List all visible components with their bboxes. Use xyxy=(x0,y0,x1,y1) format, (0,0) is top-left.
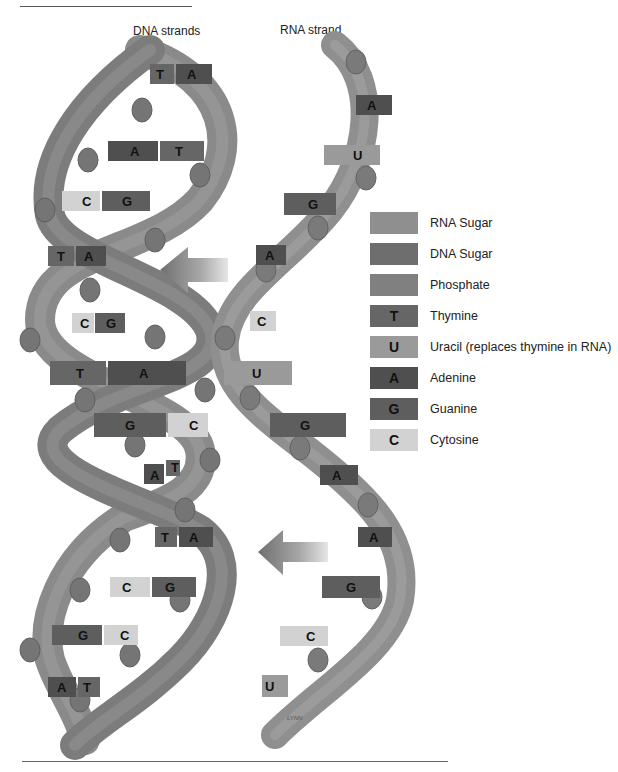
base-pair: G C xyxy=(94,413,208,437)
legend-item-phosphate: Phosphate xyxy=(370,269,611,300)
svg-text:G: G xyxy=(78,628,88,643)
svg-text:A: A xyxy=(187,67,197,82)
legend-item-dna-sugar: DNA Sugar xyxy=(370,238,611,269)
legend-label: DNA Sugar xyxy=(430,247,493,261)
base-pair: C G xyxy=(72,313,125,333)
legend-label: Phosphate xyxy=(430,278,490,292)
cytosine-swatch: C xyxy=(370,429,418,451)
legend-label: Uracil (replaces thymine in RNA) xyxy=(430,340,611,354)
thymine-swatch: T xyxy=(370,305,418,327)
legend-label: Cytosine xyxy=(430,433,479,447)
svg-text:G: G xyxy=(300,418,310,433)
base-pair: G C xyxy=(52,625,138,645)
svg-text:C: C xyxy=(189,418,199,433)
svg-text:T: T xyxy=(57,249,65,264)
svg-text:A: A xyxy=(130,144,140,159)
legend-label: Guanine xyxy=(430,402,477,416)
base-pair: A T xyxy=(108,141,204,161)
legend-item-rna-sugar: RNA Sugar xyxy=(370,207,611,238)
svg-text:T: T xyxy=(175,144,183,159)
base-pair: T A xyxy=(150,64,212,84)
svg-text:U: U xyxy=(353,148,362,163)
svg-text:U: U xyxy=(265,679,274,694)
arrow-left-icon xyxy=(258,530,328,575)
svg-text:A: A xyxy=(189,530,199,545)
adenine-swatch: A xyxy=(370,367,418,389)
rna-sugar-swatch xyxy=(370,212,418,234)
legend-label: RNA Sugar xyxy=(430,216,493,230)
base-pair: C G xyxy=(110,577,196,597)
base-pair: T A xyxy=(50,361,186,385)
base-pair: A T xyxy=(48,677,100,697)
svg-text:G: G xyxy=(106,316,116,331)
svg-text:A: A xyxy=(84,249,94,264)
legend-item-uracil: U Uracil (replaces thymine in RNA) xyxy=(370,331,611,362)
svg-text:T: T xyxy=(83,680,91,695)
legend-label: Adenine xyxy=(430,371,476,385)
svg-text:G: G xyxy=(308,197,318,212)
svg-text:T: T xyxy=(156,67,164,82)
svg-text:U: U xyxy=(252,366,261,381)
svg-text:G: G xyxy=(165,580,175,595)
svg-text:C: C xyxy=(122,580,132,595)
svg-text:C: C xyxy=(82,194,92,209)
legend-item-cytosine: C Cytosine xyxy=(370,424,611,455)
svg-text:A: A xyxy=(265,248,275,263)
svg-text:G: G xyxy=(125,418,135,433)
artist-credit: LYNN xyxy=(287,715,302,721)
svg-text:C: C xyxy=(80,316,90,331)
phosphate-swatch xyxy=(370,274,418,296)
legend: RNA Sugar DNA Sugar Phosphate T Thymine … xyxy=(370,207,611,455)
dna-sugar-swatch xyxy=(370,243,418,265)
base-pair: T A xyxy=(48,246,106,266)
base-pair: C G xyxy=(62,191,150,211)
legend-label: Thymine xyxy=(430,309,478,323)
svg-text:A: A xyxy=(57,680,67,695)
svg-text:T: T xyxy=(171,460,179,475)
svg-text:A: A xyxy=(369,530,379,545)
base-pair: T A xyxy=(155,527,213,547)
guanine-swatch: G xyxy=(370,398,418,420)
bottom-rule xyxy=(22,761,448,762)
svg-text:A: A xyxy=(367,98,377,113)
svg-text:A: A xyxy=(332,468,342,483)
svg-text:G: G xyxy=(122,194,132,209)
svg-text:T: T xyxy=(76,366,84,381)
legend-item-thymine: T Thymine xyxy=(370,300,611,331)
svg-text:C: C xyxy=(120,628,130,643)
svg-text:C: C xyxy=(257,314,267,329)
svg-text:A: A xyxy=(150,468,160,483)
legend-item-guanine: G Guanine xyxy=(370,393,611,424)
svg-text:T: T xyxy=(161,530,169,545)
legend-item-adenine: A Adenine xyxy=(370,362,611,393)
uracil-swatch: U xyxy=(370,336,418,358)
svg-text:C: C xyxy=(306,629,316,644)
svg-text:A: A xyxy=(139,366,149,381)
svg-text:G: G xyxy=(346,580,356,595)
